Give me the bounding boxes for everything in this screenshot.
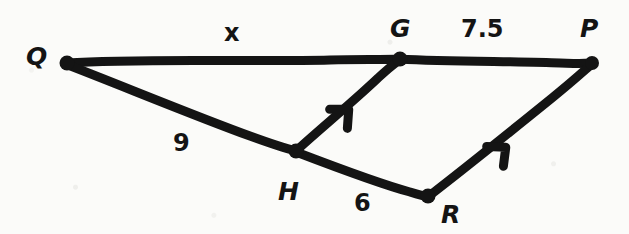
vertex-dot-P bbox=[585, 56, 599, 70]
measure-label-QH: 9 bbox=[173, 131, 190, 155]
vertex-dot-G bbox=[393, 52, 408, 67]
measure-label-HR: 6 bbox=[354, 191, 371, 215]
vertex-dot-H bbox=[289, 144, 304, 159]
measure-label-QG: x bbox=[224, 21, 239, 45]
segment-RP bbox=[429, 64, 592, 196]
vertex-label-H: H bbox=[278, 179, 299, 204]
segment-GP bbox=[400, 59, 592, 63]
vertex-label-G: G bbox=[390, 16, 411, 41]
segment-group bbox=[67, 59, 592, 197]
diagram-canvas bbox=[0, 0, 629, 234]
vertex-label-Q: Q bbox=[26, 44, 47, 69]
vertex-label-P: P bbox=[580, 16, 598, 41]
geometry-diagram: Q G P H R x 7.5 9 6 bbox=[0, 0, 629, 234]
vertex-label-R: R bbox=[441, 202, 460, 227]
measure-label-GP: 7.5 bbox=[461, 17, 504, 41]
vertex-dot-Q bbox=[60, 56, 75, 71]
segment-QG bbox=[67, 59, 400, 63]
vertex-dot-R bbox=[421, 189, 436, 204]
